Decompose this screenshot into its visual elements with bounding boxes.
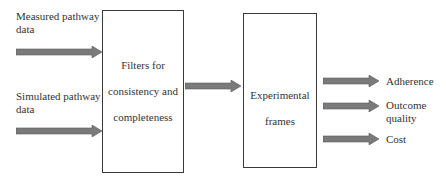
output-label-adherence-line1: Adherence xyxy=(386,75,434,88)
filter-box: Filters for consistency and completeness xyxy=(102,10,184,173)
input-label-simulated-line2: data xyxy=(16,103,101,116)
output-arrow-adherence xyxy=(323,75,379,87)
input-label-simulated-line1: Simulated pathway xyxy=(16,90,101,103)
filter-box-label: Filters for consistency and completeness xyxy=(108,46,178,137)
output-label-outcome-quality-line2: quality xyxy=(386,112,426,125)
input-label-measured-line1: Measured pathway xyxy=(16,10,99,23)
output-label-cost: Cost xyxy=(386,133,406,146)
output-arrow-cost xyxy=(323,133,379,145)
output-label-cost-line1: Cost xyxy=(386,133,406,146)
experimental-frames-line1: Experimental xyxy=(250,89,309,102)
middle-arrow xyxy=(185,80,241,92)
input-label-measured-line2: data xyxy=(16,23,99,36)
experimental-frames-line2: frames xyxy=(250,115,309,128)
input-label-simulated: Simulated pathway data xyxy=(16,90,101,116)
output-label-outcome-quality: Outcome quality xyxy=(386,99,426,125)
input-label-measured: Measured pathway data xyxy=(16,10,99,36)
experimental-frames-box: Experimental frames xyxy=(243,13,317,168)
input-arrow-measured xyxy=(16,46,102,58)
output-label-outcome-quality-line1: Outcome xyxy=(386,99,426,112)
filter-box-line3: completeness xyxy=(108,111,178,124)
output-arrow-outcome-quality xyxy=(323,100,379,112)
filter-box-line1: Filters for xyxy=(108,59,178,72)
filter-box-line2: consistency and xyxy=(108,85,178,98)
output-label-adherence: Adherence xyxy=(386,75,434,88)
experimental-frames-label: Experimental frames xyxy=(250,76,309,141)
input-arrow-simulated xyxy=(16,125,102,137)
